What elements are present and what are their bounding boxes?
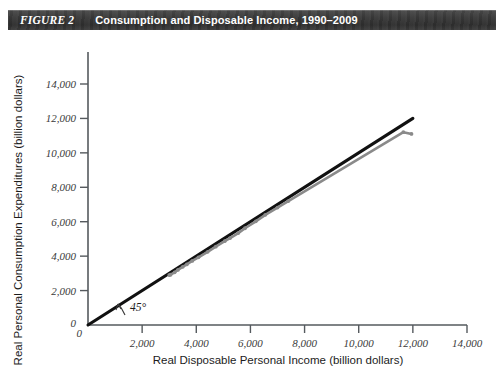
x-tick-label: 8,000 [292, 337, 317, 349]
y-tick-label: 2,000 [51, 285, 76, 297]
chart-figure: Real Personal Consumption Expenditures (… [0, 32, 504, 374]
series-point [286, 199, 290, 203]
series-point [190, 259, 194, 263]
x-tick-label: 10,000 [344, 337, 375, 349]
scatter-line-chart: Real Personal Consumption Expenditures (… [0, 32, 504, 374]
series-point [410, 132, 414, 136]
series-point [169, 273, 173, 277]
series-point [223, 239, 227, 243]
angle-label: 45° [130, 301, 147, 313]
series-point [185, 263, 189, 267]
x-axis-title: Real Disposable Personal Income (billion… [153, 354, 404, 366]
y-axis-title: Real Personal Consumption Expenditures (… [12, 74, 24, 365]
consumption-income-series-line [169, 132, 411, 275]
y-tick-label: 6,000 [51, 216, 76, 228]
y-tick-label: 10,000 [46, 147, 77, 159]
x-tick-label: 12,000 [398, 337, 429, 349]
series-point [173, 270, 177, 274]
series-point [197, 255, 201, 259]
figure-title-text: Consumption and Disposable Income, 1990–… [95, 14, 357, 26]
series-point [181, 265, 185, 269]
series-point [243, 226, 247, 230]
series-point [176, 268, 180, 272]
series-point [206, 250, 210, 254]
x-tick-label: 6,000 [238, 337, 263, 349]
y-tick-label: 4,000 [51, 250, 76, 262]
x-tick-label: 0 [77, 327, 83, 339]
y-axis-ticks: 02,0004,0006,0008,00010,00012,00014,000 [46, 78, 88, 329]
figure-title-bar: FIGURE 2 Consumption and Disposable Inco… [8, 10, 496, 30]
series-point [236, 231, 240, 235]
x-tick-label: 2,000 [130, 337, 155, 349]
series-point [214, 245, 218, 249]
y-tick-label: 8,000 [51, 181, 76, 193]
series-point [254, 219, 258, 223]
series-point [401, 130, 405, 134]
x-axis-ticks: 02,0004,0006,0008,00010,00012,00014,000 [77, 325, 483, 349]
figure-number-label: FIGURE 2 [20, 14, 74, 26]
forty-five-degree-reference-line [88, 118, 413, 325]
series-point [228, 236, 232, 240]
y-tick-label: 14,000 [46, 78, 77, 90]
x-tick-label: 4,000 [184, 337, 209, 349]
y-tick-label: 12,000 [46, 112, 77, 124]
series-point [276, 206, 280, 210]
series-point [263, 213, 267, 217]
x-tick-label: 14,000 [452, 337, 483, 349]
